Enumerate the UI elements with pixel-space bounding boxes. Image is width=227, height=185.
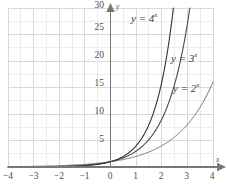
y-tick-10: 10 — [88, 107, 104, 117]
curve-label-2x-exponent: x — [196, 81, 199, 89]
x-tick-minus-4: −4 — [3, 172, 13, 182]
x-tick-0: 0 — [108, 172, 113, 182]
curve-label-4x: y = 4x — [131, 13, 157, 24]
x-tick-minus-3: −3 — [28, 172, 38, 182]
y-tick-5: 5 — [88, 135, 104, 145]
curve-label-4x-text: y = 4 — [131, 12, 154, 24]
exponential-functions-chart: 30 25 20 15 10 5 −4 −3 −2 −1 0 1 2 3 4 y… — [0, 0, 227, 185]
x-tick-minus-1: −1 — [79, 172, 89, 182]
curve-label-3x-text: y = 3 — [171, 52, 194, 64]
curve-label-3x-exponent: x — [194, 51, 197, 59]
x-axis-arrowhead — [217, 163, 226, 171]
x-tick-1: 1 — [133, 172, 138, 182]
x-axis-label: x — [216, 156, 219, 164]
curve-label-2x: y = 2x — [173, 83, 199, 94]
y-tick-25: 25 — [88, 23, 104, 33]
curve-label-2x-text: y = 2 — [173, 82, 196, 94]
x-tick-4: 4 — [210, 172, 215, 182]
y-tick-15: 15 — [88, 79, 104, 89]
x-tick-3: 3 — [184, 172, 189, 182]
x-tick-minus-2: −2 — [54, 172, 64, 182]
x-tick-2: 2 — [159, 172, 164, 182]
y-axis-label: y — [116, 3, 119, 11]
curve-label-4x-exponent: x — [154, 11, 157, 19]
y-tick-30: 30 — [88, 1, 104, 11]
curve-label-3x: y = 3x — [171, 53, 197, 64]
y-tick-20: 20 — [88, 51, 104, 61]
